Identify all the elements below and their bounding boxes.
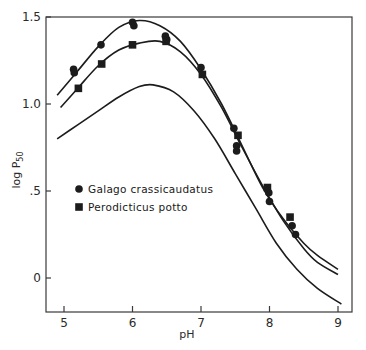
y-axis-title-main: log P [10, 161, 23, 188]
legend-circle-icon [75, 185, 83, 193]
perodicticus-data-point [234, 132, 242, 140]
legend-label: Perodicticus potto [88, 201, 188, 213]
x-tick-label: 6 [129, 316, 137, 330]
galago-data-point [197, 64, 205, 72]
galago-data-point [70, 69, 78, 77]
y-tick-label: 1.5 [22, 10, 41, 24]
perodicticus-data-point [162, 38, 170, 46]
galago-data-point [97, 41, 105, 49]
galago-data-point [266, 198, 274, 206]
x-tick-label: 5 [60, 316, 68, 330]
legend-label: Galago crassicaudatus [88, 183, 213, 195]
x-tick-label: 9 [334, 316, 342, 330]
perodicticus-data-point [264, 184, 272, 192]
legend-square-icon [75, 203, 83, 211]
svg-text:log P50: log P50 [10, 151, 25, 188]
perodicticus-data-point [286, 213, 294, 221]
galago-data-point [130, 22, 138, 30]
y-axis-title-subscript: 50 [16, 151, 25, 161]
perodicticus-data-point [129, 41, 137, 49]
perodicticus-data-point [98, 60, 106, 68]
y-axis-title: log P50 [10, 151, 25, 188]
perodicticus-data-point [75, 85, 83, 93]
legend: Galago crassicaudatusPerodicticus potto [75, 183, 213, 213]
y-tick-label: 0 [33, 271, 41, 285]
plot-frame [46, 17, 352, 312]
x-tick-label: 8 [266, 316, 274, 330]
galago-data-point [292, 231, 300, 239]
galago-data-point [230, 125, 238, 133]
x-tick-label: 7 [197, 316, 205, 330]
galago-data-point [233, 147, 241, 155]
axis-ticks: 567890.51.01.5 [22, 10, 342, 330]
perodicticus-data-point [199, 71, 207, 79]
galago-data-point [288, 222, 296, 230]
chart-canvas: 567890.51.01.5 Galago crassicaudatusPero… [0, 0, 366, 350]
x-axis-title: pH [179, 328, 194, 341]
y-tick-label: 1.0 [22, 97, 41, 111]
y-tick-label: .5 [30, 184, 41, 198]
